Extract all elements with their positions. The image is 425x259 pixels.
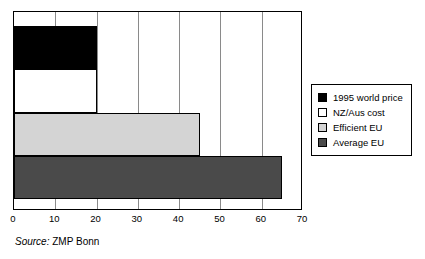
bar-chart-figure: 010203040506070 Source: ZMP Bonn 1995 wo… [0, 0, 425, 259]
xtick-label-0: 0 [0, 213, 28, 224]
legend-swatch-icon [318, 93, 327, 102]
legend-item-label: NZ/Aus cost [333, 107, 385, 118]
bar-4 [14, 156, 282, 199]
bar-3 [14, 113, 200, 156]
plot-area [13, 11, 302, 210]
xtick-label-10: 10 [39, 213, 69, 224]
xtick-label-30: 30 [122, 213, 152, 224]
legend-item-label: 1995 world price [333, 92, 403, 103]
bar-1 [14, 26, 97, 69]
legend-swatch-icon [318, 138, 327, 147]
legend-item[interactable]: NZ/Aus cost [318, 105, 406, 120]
xtick-label-60: 60 [246, 213, 276, 224]
xtick-label-70: 70 [287, 213, 317, 224]
x-axis: 010203040506070 [13, 210, 302, 232]
chart-legend: 1995 world priceNZ/Aus costEfficient EUA… [311, 84, 412, 156]
legend-item[interactable]: Efficient EU [318, 120, 406, 135]
xtick-label-50: 50 [204, 213, 234, 224]
legend-item-label: Efficient EU [333, 122, 382, 133]
xtick-label-20: 20 [81, 213, 111, 224]
bar-series [14, 12, 301, 209]
bar-2 [14, 69, 97, 112]
legend-swatch-icon [318, 108, 327, 117]
xtick-label-40: 40 [163, 213, 193, 224]
source-label: Source: [15, 236, 49, 247]
legend-item-label: Average EU [333, 137, 384, 148]
source-text: ZMP Bonn [52, 236, 99, 247]
legend-swatch-icon [318, 123, 327, 132]
gridline-70 [302, 12, 303, 209]
legend-item[interactable]: 1995 world price [318, 90, 406, 105]
legend-item[interactable]: Average EU [318, 135, 406, 150]
source-note: Source: ZMP Bonn [15, 236, 99, 248]
